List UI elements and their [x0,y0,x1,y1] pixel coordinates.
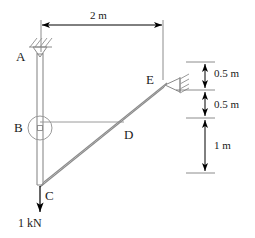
dimension-extension-lines-right [176,62,215,173]
pin-triangle-a [33,47,47,57]
node-label-b: B [14,121,23,134]
dimension-label-one-m: 1 m [214,140,231,151]
dimension-span-2m [41,20,163,80]
joint-circle-b [28,116,52,140]
diagram-canvas [0,0,255,238]
dimension-label-half-upper: 0.5 m [214,68,239,79]
joint-pin-b [28,116,52,140]
member-beam-ce [40,83,167,187]
dimension-label-half-lower: 0.5 m [214,99,239,110]
member-column-abc [37,53,43,185]
load-label-1kn: 1 kN [18,217,42,229]
node-label-a: A [16,50,25,63]
node-label-d: D [124,128,133,141]
dimension-label-span: 2 m [90,10,107,21]
structural-diagram: A B C D E 2 m 0.5 m 0.5 m 1 m 1 kN [0,0,255,238]
node-label-e: E [146,73,154,86]
node-label-c: C [45,189,54,202]
joint-square-b [38,126,43,131]
